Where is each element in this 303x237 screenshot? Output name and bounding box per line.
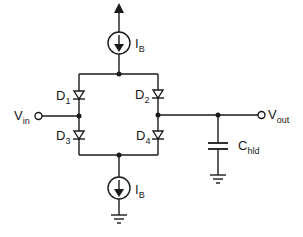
- d1-label: D1: [56, 88, 70, 106]
- d4-label: D4: [136, 128, 150, 146]
- diode-d2-icon: [152, 90, 164, 98]
- capacitor-icon: [208, 115, 228, 175]
- top-current-source-label: IB: [135, 36, 145, 54]
- output-node-dot: [156, 113, 161, 118]
- cap-ground-icon: [210, 175, 226, 183]
- top-current-source: [108, 32, 130, 74]
- vout-label: Vout: [268, 107, 290, 125]
- output-terminal: [258, 112, 265, 119]
- input-terminal: [35, 113, 42, 120]
- vin-label: Vin: [14, 108, 30, 126]
- supply-arrow-icon: [114, 3, 124, 32]
- circuit-diagram: IB D1 D3 Vin D2 D4 Vout Chld: [0, 0, 303, 237]
- top-junction-dot: [117, 72, 122, 77]
- bottom-current-source-label: IB: [135, 182, 145, 200]
- diode-d1-icon: [73, 91, 85, 99]
- chld-label: Chld: [238, 138, 259, 156]
- input-node-dot: [77, 114, 82, 119]
- bottom-ground-icon: [111, 215, 127, 223]
- d2-label: D2: [135, 87, 149, 105]
- bottom-current-source: [108, 155, 130, 215]
- diode-d4-icon: [152, 131, 164, 139]
- diode-d3-icon: [73, 131, 85, 139]
- d3-label: D3: [56, 128, 70, 146]
